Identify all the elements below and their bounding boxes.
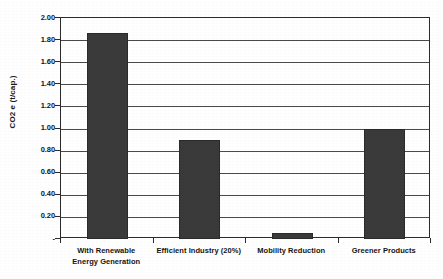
plot-area [60,17,430,238]
x-axis-category-label: With RenewableEnergy Generation [60,245,153,267]
x-axis-category-label-line1: Efficient Industry (20%) [156,246,241,255]
y-axis-title: CO2 e (t/cap.) [6,52,20,152]
y-axis-tick-label: - [28,234,55,243]
y-axis-tick-label: 1.60 [28,57,55,66]
y-axis-tick-label: 0.20 [28,211,55,220]
x-axis-category-label: Efficient Industry (20%) [153,245,246,256]
y-axis-tick-label: 0.60 [28,167,55,176]
bar-chart-figure: CO2 e (t/cap.) 2.001.801.601.401.201.000… [0,0,443,279]
x-axis-tick-mark [60,238,61,243]
x-axis-tick-mark [245,238,246,243]
y-axis-tick-label: 2.00 [28,13,55,22]
x-axis-category-label: Greener Products [338,245,431,256]
bar [364,129,405,240]
y-axis-tick-label: 1.40 [28,79,55,88]
x-axis-category-label-line2: Energy Generation [60,256,153,267]
x-axis-category-label-line1: Mobility Reduction [257,246,325,255]
y-axis-tick-label: 1.20 [28,101,55,110]
x-axis-tick-mark [430,238,431,243]
y-axis-tick-label: 0.40 [28,189,55,198]
x-axis-category-label-line1: With Renewable [77,246,135,255]
x-axis-tick-mark [153,238,154,243]
bar [179,140,220,239]
y-axis-tick-label: 1.00 [28,123,55,132]
bar [272,233,313,239]
bar [87,33,128,239]
x-axis-category-label-line1: Greener Products [352,246,416,255]
y-axis-tick-label: 1.80 [28,35,55,44]
y-axis-tick-label: 0.80 [28,145,55,154]
x-axis-tick-mark [338,238,339,243]
x-axis-category-label: Mobility Reduction [245,245,338,256]
